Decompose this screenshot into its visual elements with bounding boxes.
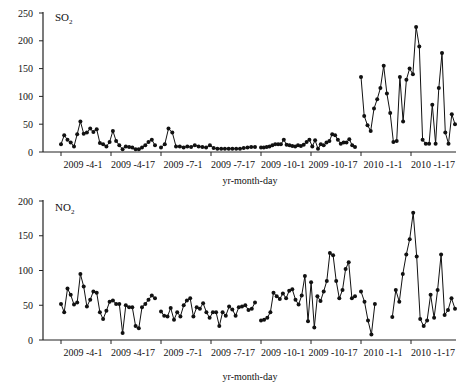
svg-text:150: 150 bbox=[18, 63, 33, 74]
svg-text:200: 200 bbox=[18, 196, 33, 207]
so2-panel: 050100150200250 2009 -4-12009 -4-172009 … bbox=[18, 8, 457, 187]
svg-text:2009 -4-1: 2009 -4-1 bbox=[63, 347, 102, 358]
no2-y-ticks: 050100150200 bbox=[18, 196, 43, 346]
no2-panel: 050100150200 2009 -4-12009 -4-172009 -7-… bbox=[18, 196, 457, 383]
no2-series bbox=[59, 211, 457, 337]
no2-x-axis-title: yr-month-day bbox=[223, 371, 278, 382]
svg-text:150: 150 bbox=[18, 230, 33, 241]
svg-text:2010 -1-17: 2010 -1-17 bbox=[411, 159, 455, 170]
svg-text:2009 -7-1: 2009 -7-1 bbox=[163, 159, 202, 170]
svg-text:250: 250 bbox=[18, 8, 33, 19]
svg-text:50: 50 bbox=[23, 300, 33, 311]
svg-text:2009 -7-17: 2009 -7-17 bbox=[211, 159, 255, 170]
so2-y-ticks: 050100150200250 bbox=[18, 8, 43, 158]
svg-text:0: 0 bbox=[28, 335, 33, 346]
svg-text:100: 100 bbox=[18, 91, 33, 102]
so2-series-label: SO2 bbox=[55, 11, 73, 26]
svg-text:2009 -4-17: 2009 -4-17 bbox=[111, 159, 155, 170]
svg-text:50: 50 bbox=[23, 119, 33, 130]
so2-x-ticks: 2009 -4-12009 -4-172009 -7-12009 -7-1720… bbox=[61, 152, 455, 170]
so2-series bbox=[59, 25, 457, 151]
chart-canvas: 050100150200250 2009 -4-12009 -4-172009 … bbox=[0, 0, 467, 390]
svg-text:2009 -10-1: 2009 -10-1 bbox=[261, 159, 305, 170]
svg-text:0: 0 bbox=[28, 147, 33, 158]
svg-text:2010 -1-1: 2010 -1-1 bbox=[363, 159, 402, 170]
svg-text:2010 -1-1: 2010 -1-1 bbox=[363, 347, 402, 358]
svg-text:100: 100 bbox=[18, 265, 33, 276]
svg-text:2009 -4-1: 2009 -4-1 bbox=[63, 159, 102, 170]
svg-text:2009 -4-17: 2009 -4-17 bbox=[111, 347, 155, 358]
no2-x-ticks: 2009 -4-12009 -4-172009 -7-12009 -7-1720… bbox=[61, 340, 455, 358]
svg-text:2009 -7-1: 2009 -7-1 bbox=[163, 347, 202, 358]
svg-text:2009 -7-17: 2009 -7-17 bbox=[211, 347, 255, 358]
no2-series-label: NO2 bbox=[55, 201, 75, 216]
svg-text:2009 -10-17: 2009 -10-17 bbox=[308, 347, 357, 358]
svg-text:200: 200 bbox=[18, 35, 33, 46]
svg-text:2010 -1-17: 2010 -1-17 bbox=[411, 347, 455, 358]
svg-text:2009 -10-1: 2009 -10-1 bbox=[261, 347, 305, 358]
so2-x-axis-title: yr-month-day bbox=[223, 175, 278, 186]
svg-text:2009 -10-17: 2009 -10-17 bbox=[308, 159, 357, 170]
